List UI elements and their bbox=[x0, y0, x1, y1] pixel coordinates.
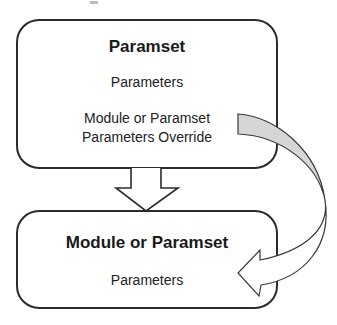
module-parameters-label: Parameters bbox=[111, 272, 183, 288]
paramset-override-diagram: Paramset Parameters Module or Paramset P… bbox=[0, 0, 337, 325]
module-or-paramset-title: Module or Paramset bbox=[66, 233, 229, 252]
override-label-line1: Module or Paramset bbox=[84, 110, 210, 126]
module-or-paramset-box: Module or Paramset Parameters bbox=[17, 211, 277, 308]
paramset-parameters-label: Parameters bbox=[111, 74, 183, 90]
cropped-caption-fragment bbox=[90, 1, 98, 4]
override-label-line2: Parameters Override bbox=[82, 129, 212, 145]
hollow-down-arrow-icon bbox=[116, 168, 178, 211]
paramset-box: Paramset Parameters Module or Paramset P… bbox=[17, 20, 277, 168]
paramset-title: Paramset bbox=[109, 37, 186, 56]
